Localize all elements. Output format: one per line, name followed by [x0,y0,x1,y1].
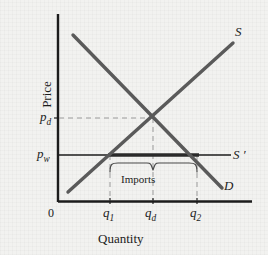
supply-curve [68,43,233,192]
demand-curve-label: D [224,179,233,192]
supply-demand-imports-figure: Price Quantity 0 pd pw q1 qd q2 S S ′ D … [0,0,268,255]
x-tick-label-q2: q2 [190,206,201,223]
supply-curve-label: S [235,25,242,38]
y-tick-label-pd: pd [40,110,51,127]
y-tick-label-pd-sub: d [47,117,52,127]
imports-label: Imports [121,174,155,185]
x-axis-title: Quantity [98,232,144,245]
x-tick-label-q1: q1 [103,206,114,223]
y-tick-label-pw: pw [37,147,50,164]
world-supply-curve-label: S ′ [233,148,246,161]
origin-label: 0 [48,207,54,219]
y-tick-label-pw-sub: w [44,154,50,164]
x-tick-label-qd: qd [145,206,156,223]
x-tick-label-q2-sub: 2 [197,213,202,223]
plot-area [0,0,268,255]
x-tick-label-q1-sub: 1 [110,213,115,223]
x-tick-label-qd-sub: d [152,213,157,223]
